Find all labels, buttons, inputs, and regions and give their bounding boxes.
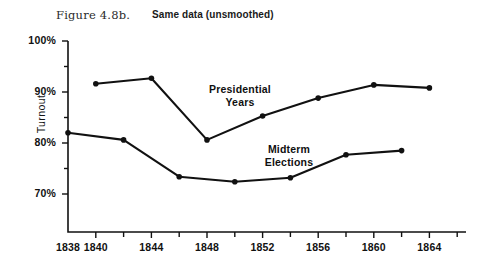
data-point-marker — [176, 174, 182, 180]
data-point-marker — [288, 175, 294, 181]
x-axis-tick-label: 1840 — [73, 241, 119, 253]
data-point-marker — [371, 82, 377, 88]
series-annotation-presidential: Presidential Years — [192, 83, 288, 108]
data-point-marker — [427, 85, 433, 91]
y-axis-tick-label: 100% — [14, 34, 56, 46]
x-axis-tick-label: 1856 — [295, 241, 341, 253]
data-point-marker — [65, 130, 71, 136]
chart-plot-area — [0, 0, 478, 265]
data-point-marker — [232, 179, 238, 185]
data-point-marker — [93, 81, 99, 87]
series-line-midterm — [68, 133, 402, 182]
data-point-marker — [204, 137, 210, 143]
data-point-marker — [121, 137, 127, 143]
x-axis-tick-label: 1860 — [351, 241, 397, 253]
data-point-marker — [260, 113, 266, 119]
x-axis-tick-label: 1844 — [128, 241, 174, 253]
y-axis-tick-label: 80% — [14, 136, 56, 148]
y-axis-tick-label: 90% — [14, 85, 56, 97]
x-axis-tick-label: 1864 — [406, 241, 452, 253]
y-axis-tick-label: 70% — [14, 187, 56, 199]
figure-number-label: Figure 4.8b. — [56, 8, 130, 22]
x-axis-tick-label: 1852 — [240, 241, 286, 253]
data-point-marker — [149, 75, 155, 81]
figure-subtitle: Same data (unsmoothed) — [152, 9, 274, 20]
figure-container: Figure 4.8b. Same data (unsmoothed) Turn… — [0, 0, 478, 265]
data-point-marker — [315, 95, 321, 101]
series-annotation-midterm: Midterm Elections — [246, 143, 332, 168]
axis-lines — [68, 41, 466, 232]
data-point-marker — [343, 152, 349, 158]
x-axis-tick-label: 1848 — [184, 241, 230, 253]
data-point-marker — [399, 148, 405, 154]
